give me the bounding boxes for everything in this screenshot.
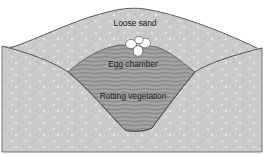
egg-icon: [133, 46, 143, 56]
egg-icon: [135, 36, 143, 43]
label-egg-chamber: Egg chamber: [108, 59, 157, 69]
label-rotting-vegetation: Rotting vegetation: [100, 91, 167, 101]
label-loose-sand: Loose sand: [114, 18, 157, 28]
